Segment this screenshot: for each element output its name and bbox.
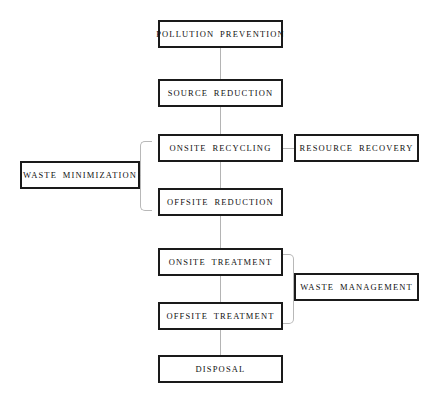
node-pollution-prevention[interactable]: POLLUTION PREVENTION [158,20,283,48]
connector-offsite-reduction-to-onsite-treatment [220,216,221,248]
connector-pollution-prevention-to-source-reduction [220,48,221,79]
node-source-reduction[interactable]: SOURCE REDUCTION [158,79,283,107]
connector-offsite-treatment-to-disposal [220,330,221,355]
node-onsite-recycling[interactable]: ONSITE RECYCLING [158,134,283,162]
node-waste-minimization[interactable]: WASTE MINIMIZATION [20,161,140,189]
node-resource-recovery[interactable]: RESOURCE RECOVERY [294,134,419,162]
node-offsite-treatment[interactable]: OFFSITE TREATMENT [158,302,283,330]
connector-onsite-recycling-to-resource-recovery [283,148,294,149]
node-offsite-reduction[interactable]: OFFSITE REDUCTION [158,188,283,216]
node-onsite-treatment[interactable]: ONSITE TREATMENT [158,248,283,276]
flowchart-diagram: POLLUTION PREVENTION SOURCE REDUCTION ON… [0,0,429,400]
waste-management-bracket [282,254,294,324]
node-waste-management[interactable]: WASTE MANAGEMENT [294,273,419,301]
connector-onsite-recycling-to-offsite-reduction [220,162,221,188]
connector-onsite-treatment-to-offsite-treatment [220,276,221,302]
connector-source-reduction-to-onsite-recycling [220,107,221,134]
node-disposal[interactable]: DISPOSAL [158,355,283,383]
waste-minimization-bracket [140,141,152,211]
